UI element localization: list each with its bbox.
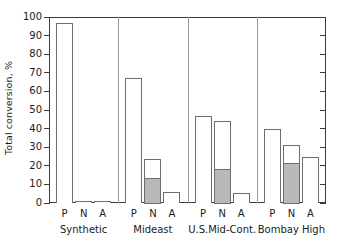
x-series-label-a: A xyxy=(88,208,117,219)
x-series-label-a: A xyxy=(296,208,325,219)
bars-layer xyxy=(49,17,326,203)
y-tick-label: 100 xyxy=(2,12,42,22)
y-tick-label: 50 xyxy=(2,105,42,115)
bar-bombay-high-a xyxy=(302,157,319,204)
bar-synthetic-n xyxy=(75,201,92,203)
y-tick-label: 70 xyxy=(2,68,42,78)
bar-u-s-mid-cont--n xyxy=(214,121,231,203)
bar-u-s-mid-cont--a xyxy=(233,193,250,203)
group-separator xyxy=(118,17,119,203)
bar-mideast-p xyxy=(125,78,142,203)
bar-shaded-portion xyxy=(283,163,300,204)
bar-synthetic-a xyxy=(94,201,111,203)
bar-mideast-a xyxy=(163,192,180,203)
x-series-label-a: A xyxy=(157,208,186,219)
bar-bombay-high-p xyxy=(264,129,281,203)
bar-mideast-n xyxy=(144,159,161,203)
y-tick-label: 40 xyxy=(2,124,42,134)
bar-u-s-mid-cont--p xyxy=(195,116,212,203)
group-separator xyxy=(188,17,189,203)
group-separator xyxy=(257,17,258,203)
y-tick-label: 0 xyxy=(2,198,42,208)
y-tick-label: 60 xyxy=(2,86,42,96)
bar-synthetic-p xyxy=(56,23,73,203)
x-group-label-bombay-high: Bombay High xyxy=(247,224,336,236)
bar-bombay-high-n xyxy=(283,145,300,203)
chart-root: Total conversion, % 01020304050607080901… xyxy=(0,0,350,250)
bar-shaded-portion xyxy=(144,178,161,204)
y-tick-label: 90 xyxy=(2,31,42,41)
x-series-label-a: A xyxy=(227,208,256,219)
y-tick-label: 10 xyxy=(2,179,42,189)
y-tick-label: 20 xyxy=(2,161,42,171)
bar-shaded-portion xyxy=(214,169,231,204)
y-tick-label: 80 xyxy=(2,49,42,59)
y-tick-label: 30 xyxy=(2,142,42,152)
